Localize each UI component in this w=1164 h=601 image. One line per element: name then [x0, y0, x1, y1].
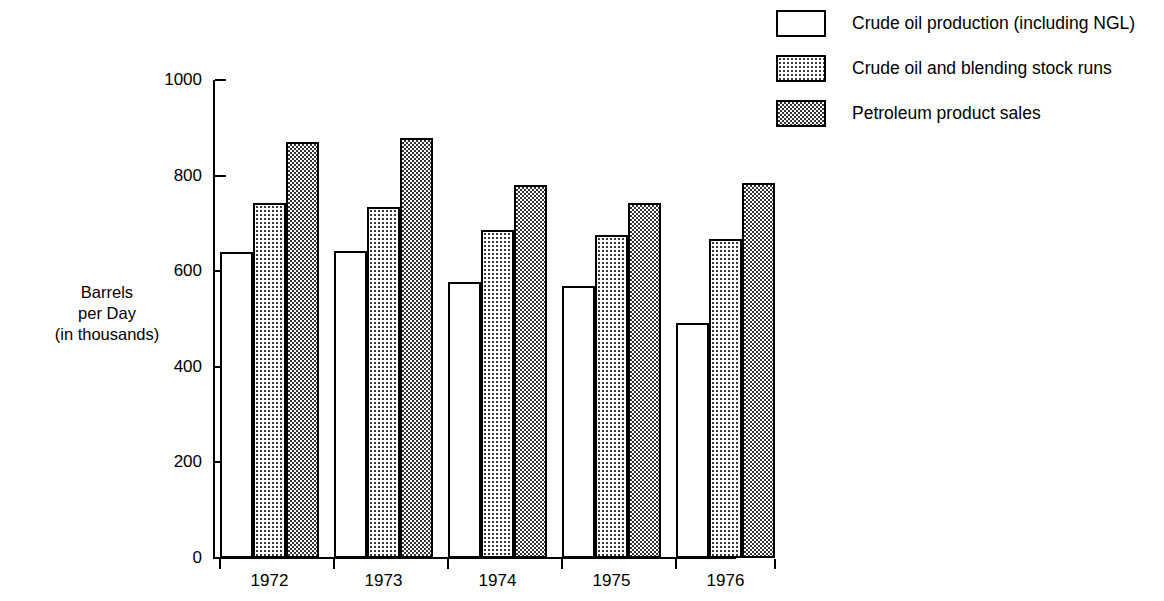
- legend-swatch-crude-oil-production: [776, 10, 826, 37]
- bar: [595, 235, 628, 558]
- y-axis-title-line-1: Barrels: [14, 282, 200, 303]
- x-axis-tick: [333, 559, 335, 569]
- legend-label: Petroleum product sales: [852, 103, 1041, 123]
- x-axis-tick-label: 1976: [686, 572, 766, 590]
- legend-item: Petroleum product sales: [776, 96, 1164, 130]
- bar: [367, 207, 400, 558]
- x-axis-tick-label: 1972: [230, 572, 310, 590]
- y-axis-title: Barrels per Day (in thousands): [14, 282, 200, 345]
- bar: [253, 203, 286, 558]
- bars-layer: [213, 80, 736, 558]
- legend-swatch-petroleum-product-sales: [776, 100, 826, 127]
- y-axis-tick-label: 400: [140, 358, 202, 375]
- y-axis-tick-label: 600: [140, 262, 202, 279]
- legend-item: Crude oil and blending stock runs: [776, 51, 1164, 85]
- legend-item: Crude oil production (including NGL): [776, 6, 1164, 40]
- legend-label: Crude oil and blending stock runs: [852, 58, 1112, 78]
- bar: [709, 239, 742, 558]
- bar: [562, 286, 595, 558]
- legend-label: Crude oil production (including NGL): [852, 13, 1135, 33]
- x-axis-tick: [561, 559, 563, 569]
- y-axis-tick-label: 1000: [140, 71, 202, 88]
- legend-swatch-blending-stock-runs: [776, 55, 826, 82]
- bar: [676, 323, 709, 558]
- x-axis-tick-label: 1975: [572, 572, 652, 590]
- chart-legend: Crude oil production (including NGL) Cru…: [776, 6, 1164, 141]
- bar: [628, 203, 661, 558]
- bar-chart: Crude oil production (including NGL) Cru…: [0, 0, 1164, 601]
- bar: [400, 138, 433, 558]
- x-axis-tick-label: 1974: [458, 572, 538, 590]
- bar: [742, 183, 775, 558]
- x-axis-tick-label: 1973: [344, 572, 424, 590]
- bar: [334, 251, 367, 558]
- x-axis-tick: [774, 559, 776, 569]
- y-axis-title-line-3: (in thousands): [14, 324, 200, 345]
- bar: [220, 252, 253, 558]
- x-axis-tick: [219, 559, 221, 569]
- x-axis-tick: [675, 559, 677, 569]
- bar: [514, 185, 547, 558]
- bar: [286, 142, 319, 558]
- x-axis-tick: [447, 559, 449, 569]
- y-axis-tick-label: 200: [140, 453, 202, 470]
- bar: [448, 282, 481, 558]
- y-axis-title-line-2: per Day: [14, 303, 200, 324]
- y-axis-tick-label: 0: [140, 549, 202, 566]
- bar: [481, 230, 514, 558]
- y-axis-tick-label: 800: [140, 167, 202, 184]
